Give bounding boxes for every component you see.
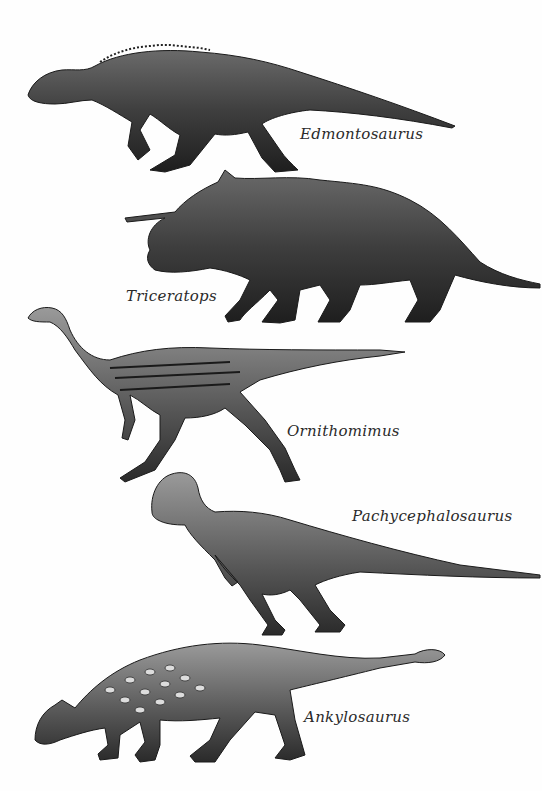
edmontosaurus-drawing: [28, 45, 455, 172]
label-edmontosaurus: Edmontosaurus: [300, 125, 423, 143]
pachycephalosaurus-drawing: [152, 473, 540, 635]
ornithomimus-drawing: [28, 307, 405, 482]
label-pachycephalosaurus: Pachycephalosaurus: [352, 507, 512, 525]
ankylosaurus-drawing: [35, 643, 445, 762]
dinosaur-illustration-plate: Edmontosaurus Triceratops Ornithomimus P…: [0, 0, 542, 791]
dinosaur-drawings: [0, 0, 542, 791]
label-ankylosaurus: Ankylosaurus: [304, 708, 410, 726]
label-ornithomimus: Ornithomimus: [287, 422, 400, 440]
label-triceratops: Triceratops: [126, 287, 217, 305]
